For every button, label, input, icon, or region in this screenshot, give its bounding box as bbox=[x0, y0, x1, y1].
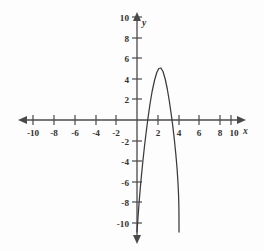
y-tick-label: 8 bbox=[124, 34, 129, 44]
x-tick-label: -10 bbox=[27, 128, 40, 138]
y-tick-label: 2 bbox=[124, 95, 129, 105]
x-axis-left-arrow-icon bbox=[18, 116, 27, 124]
x-tick-label: 6 bbox=[197, 128, 202, 138]
x-axis-right-arrow-icon bbox=[237, 116, 246, 124]
graph-figure: -10 -8 -6 -4 -2 2 4 6 8 10 10 8 6 4 2 -2… bbox=[0, 0, 264, 251]
x-tick-label: 2 bbox=[156, 128, 161, 138]
x-tick-label: -2 bbox=[112, 128, 120, 138]
y-tick-label: -8 bbox=[121, 198, 129, 208]
x-tick-label: -8 bbox=[50, 128, 58, 138]
y-tick-label: 4 bbox=[124, 75, 129, 85]
x-axis-label: x bbox=[242, 125, 248, 136]
coordinate-plane: -10 -8 -6 -4 -2 2 4 6 8 10 10 8 6 4 2 -2… bbox=[0, 0, 264, 251]
y-tick-label: -2 bbox=[121, 137, 129, 147]
parabola-curve bbox=[137, 68, 179, 232]
y-axis-bottom-arrow-icon bbox=[133, 235, 141, 244]
x-tick-label: -4 bbox=[92, 128, 100, 138]
y-tick-label: 6 bbox=[124, 54, 129, 64]
x-tick-label: 4 bbox=[177, 128, 182, 138]
y-tick-label: -4 bbox=[121, 157, 129, 167]
y-axis-label: y bbox=[141, 17, 147, 28]
x-tick-label: -6 bbox=[71, 128, 79, 138]
y-tick-label: 10 bbox=[120, 13, 130, 23]
x-tick-label: 10 bbox=[229, 128, 239, 138]
x-tick-label: 8 bbox=[218, 128, 223, 138]
y-tick-label: -10 bbox=[117, 219, 130, 229]
y-tick-label: -6 bbox=[121, 178, 129, 188]
